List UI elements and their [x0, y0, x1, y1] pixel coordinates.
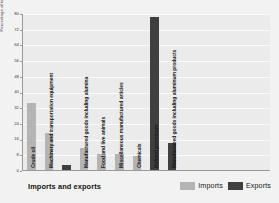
legend-label-exports: Exports: [246, 181, 271, 190]
legend-item-imports: Imports: [180, 181, 223, 190]
gridline: [23, 14, 270, 15]
gridline: [23, 155, 270, 156]
y-axis-tick-label: 64: [0, 43, 19, 47]
y-axis-tick-mark: [20, 171, 22, 172]
y-axis-tick-label: 72: [0, 28, 19, 32]
gridline: [23, 124, 270, 125]
bar-category-label: Manufactured goods including aluminum pr…: [171, 50, 177, 168]
chart-figure: Percentage of total 08162432404856647280…: [0, 0, 279, 203]
y-axis-tick-label: 48: [0, 75, 19, 79]
bar-category-label: Machinery and transportation equipment: [48, 73, 54, 168]
legend-label-imports: Imports: [198, 181, 223, 190]
gridline: [23, 61, 270, 62]
bar-category-label: Manufactured goods including alumina: [83, 77, 89, 168]
legend-item-exports: Exports: [228, 181, 271, 190]
bar-category-label: Food and live animals: [100, 117, 106, 168]
plot-area: Crude oilMachinery and transportation eq…: [22, 14, 270, 171]
bar-category-label: Miscellaneous manufactured articles: [118, 82, 124, 168]
bar-category-label: Chemicals: [136, 143, 142, 168]
gridline: [23, 45, 270, 46]
legend: Imports Exports: [180, 181, 271, 190]
gridline: [23, 140, 270, 141]
gridline: [23, 93, 270, 94]
y-axis-tick-label: 40: [0, 90, 19, 94]
bar-category-label: Refined petroleum: [153, 125, 159, 168]
gridline: [23, 30, 270, 31]
bar: [62, 165, 71, 170]
bar-category-label: Crude oil: [30, 147, 36, 168]
y-axis-tick-label: 56: [0, 59, 19, 63]
y-axis-tick-label: 24: [0, 122, 19, 126]
y-axis-tick-label: 80: [0, 12, 19, 16]
gridline: [23, 108, 270, 109]
y-axis-tick-label: 8: [0, 153, 19, 157]
gridline: [23, 77, 270, 78]
legend-swatch-exports: [228, 182, 243, 190]
x-axis-title: Imports and exports: [28, 182, 101, 191]
y-axis-tick-label: 16: [0, 137, 19, 141]
y-axis-tick-label: 0: [0, 169, 19, 173]
y-axis-tick-label: 32: [0, 106, 19, 110]
legend-swatch-imports: [180, 182, 195, 190]
